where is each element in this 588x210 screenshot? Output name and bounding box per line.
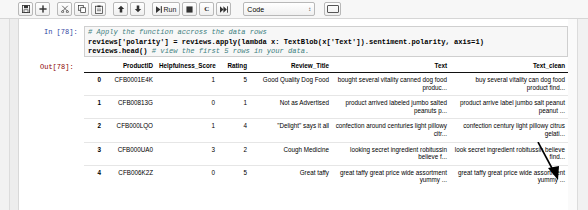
- command-palette-button[interactable]: [324, 2, 341, 16]
- dataframe-table: ProductID Helpfulness_Score Rating Revie…: [84, 60, 568, 188]
- restart-and-run-all-button[interactable]: [216, 2, 231, 16]
- cell-text: confection around centuries light pillow…: [332, 119, 450, 142]
- code-line-1: # Apply the function accross the data ro…: [88, 28, 564, 38]
- table-header-row: ProductID Helpfulness_Score Rating Revie…: [84, 60, 568, 73]
- column-header-text-clean: Text_clean: [450, 60, 568, 73]
- cell-productid: CFB006K2Z: [104, 165, 156, 188]
- plus-icon: [39, 5, 47, 13]
- cell-helpfulness-score: 0: [156, 96, 218, 119]
- move-cell-up-button[interactable]: [113, 2, 128, 16]
- input-prompt: In [78]:: [44, 28, 78, 36]
- cell-type-select[interactable]: Code ↕: [243, 2, 315, 16]
- code-line-2: reviews['polarity'] = reviews.apply(lamb…: [88, 38, 564, 48]
- code-statement-3: reviews.head(): [88, 47, 152, 55]
- fast-forward-icon: [220, 6, 228, 13]
- notebook-page: Run C Code ↕ In [78]: #: [0, 0, 588, 210]
- cell-productid: CFB000LQO: [104, 119, 156, 142]
- cell-text-clean: great taffy great price wide assortment …: [450, 165, 568, 188]
- cell-helpfulness-score: 3: [156, 142, 218, 165]
- insert-cell-button[interactable]: [35, 2, 50, 16]
- code-line-3: reviews.head() # view the first 5 rows i…: [88, 47, 564, 57]
- row-index: 2: [84, 119, 104, 142]
- table-row: 4 CFB006K2Z 0 5 Great taffy great taffy …: [84, 165, 568, 188]
- restart-kernel-button[interactable]: C: [199, 2, 214, 16]
- keyboard-icon: [327, 5, 339, 13]
- arrow-up-icon: [117, 5, 125, 13]
- page-left-inner-margin: [10, 19, 19, 210]
- page-right-inner-margin: [568, 19, 577, 210]
- page-left-margin: [0, 0, 10, 210]
- table-row: 0 CFB0001E4K 1 5 Good Quality Dog Food b…: [84, 73, 568, 96]
- cell-text: great taffy great price wide assortment …: [332, 165, 450, 188]
- cell-productid: CFB000UA0: [104, 142, 156, 165]
- save-button[interactable]: [18, 2, 33, 16]
- cut-cell-button[interactable]: [57, 2, 72, 16]
- table-row: 1 CFB00813G 0 1 Not as Advertised produc…: [84, 96, 568, 119]
- table-row: 2 CFB000LQO 1 4 "Delight" says it all co…: [84, 119, 568, 142]
- cell-rating: 5: [218, 165, 250, 188]
- cell-text-clean: product arrive label jumbo salt peanut p…: [450, 96, 568, 119]
- column-header-productid: ProductID: [104, 60, 156, 73]
- cell-review-title: "Delight" says it all: [250, 119, 332, 142]
- cell-rating: 1: [218, 96, 250, 119]
- page-right-margin: [577, 0, 588, 210]
- cell-helpfulness-score: 0: [156, 165, 218, 188]
- stop-square-icon: [186, 6, 193, 13]
- cell-text-clean: buy several vitality can dog food produc…: [450, 73, 568, 96]
- cell-text: bought several vitality canned dog food …: [332, 73, 450, 96]
- column-header-rating: Rating: [218, 60, 250, 73]
- run-button-label: Run: [164, 6, 177, 13]
- table-body: 0 CFB0001E4K 1 5 Good Quality Dog Food b…: [84, 73, 568, 188]
- copy-icon: [78, 5, 86, 13]
- cell-productid: CFB0001E4K: [104, 73, 156, 96]
- cell-productid: CFB00813G: [104, 96, 156, 119]
- cell-text-clean: look secret ingredient robitussin believ…: [450, 142, 568, 165]
- code-comment-3: # view the first 5 rows in your data.: [152, 47, 310, 55]
- run-cell-button[interactable]: Run: [152, 2, 180, 16]
- cell-text: looking secret ingredient robitussin bel…: [332, 142, 450, 165]
- code-cell-editor[interactable]: # Apply the function accross the data ro…: [84, 26, 568, 57]
- cell-helpfulness-score: 1: [156, 73, 218, 96]
- scissors-icon: [61, 5, 69, 13]
- cell-review-title: Great taffy: [250, 165, 332, 188]
- cell-text-clean: confection century light pillowy citrus …: [450, 119, 568, 142]
- arrow-down-icon: [134, 5, 142, 13]
- cell-review-title: Not as Advertised: [250, 96, 332, 119]
- copy-cell-button[interactable]: [74, 2, 89, 16]
- table-row: 3 CFB000UA0 3 2 Cough Medicine looking s…: [84, 142, 568, 165]
- save-icon: [22, 5, 30, 13]
- column-header-index: [84, 60, 104, 73]
- chevron-updown-icon: ↕: [308, 6, 311, 12]
- paste-cell-button[interactable]: [91, 2, 106, 16]
- notebook-toolbar: Run C Code ↕: [0, 0, 588, 19]
- cell-review-title: Good Quality Dog Food: [250, 73, 332, 96]
- cell-rating: 5: [218, 73, 250, 96]
- code-comment-1: # Apply the function accross the data ro…: [88, 28, 267, 36]
- run-icon: [156, 6, 162, 13]
- cell-text: product arrived labeled jumbo salted pea…: [332, 96, 450, 119]
- move-cell-down-button[interactable]: [130, 2, 145, 16]
- column-header-review-title: Review_Title: [250, 60, 332, 73]
- cell-rating: 4: [218, 119, 250, 142]
- table-head: ProductID Helpfulness_Score Rating Revie…: [84, 60, 568, 73]
- dataframe-output: ProductID Helpfulness_Score Rating Revie…: [84, 60, 568, 199]
- restart-circle-icon: C: [204, 6, 209, 13]
- cell-review-title: Cough Medicine: [250, 142, 332, 165]
- row-index: 4: [84, 165, 104, 188]
- interrupt-kernel-button[interactable]: [182, 2, 197, 16]
- column-header-helpfulness-score: Helpfulness_Score: [156, 60, 218, 73]
- cell-rating: 2: [218, 142, 250, 165]
- row-index: 0: [84, 73, 104, 96]
- row-index: 1: [84, 96, 104, 119]
- paste-icon: [95, 5, 103, 14]
- column-header-text: Text: [332, 60, 450, 73]
- cell-type-value: Code: [247, 6, 264, 13]
- cell-helpfulness-score: 1: [156, 119, 218, 142]
- row-index: 3: [84, 142, 104, 165]
- output-prompt: Out[78]:: [40, 63, 74, 71]
